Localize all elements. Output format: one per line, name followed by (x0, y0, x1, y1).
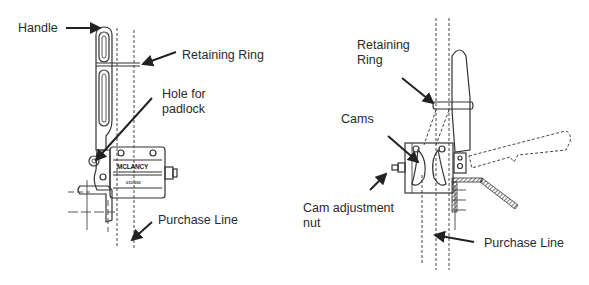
label-retaining-ring-left: Retaining Ring (182, 48, 264, 63)
purchase-line-arrow-right (435, 235, 474, 242)
cam-adjustment-nut (398, 163, 405, 172)
label-cam-adjustment-nut: Cam adjustment nut (303, 201, 394, 231)
label-handle: Handle (18, 21, 58, 36)
retaining-ring-arrow-right (402, 78, 433, 103)
padlock-hole-arrow (96, 98, 152, 160)
retaining-ring-right (433, 102, 473, 109)
model-text: 010-000 (126, 180, 141, 185)
raised-handle (452, 50, 470, 152)
label-hole-for-padlock: Hole for padlock (162, 87, 206, 117)
lowered-handle-outline (469, 131, 570, 168)
handle-lower-slot (99, 70, 109, 126)
retaining-ring-arrow-left (143, 52, 176, 64)
mounting-bracket (480, 178, 518, 209)
cam-left (412, 150, 425, 185)
brand-text: MCLANCY (117, 163, 149, 170)
handle-upper-slot (99, 32, 109, 62)
cam-right (433, 150, 446, 185)
label-cams: Cams (341, 112, 374, 127)
label-purchase-line-left: Purchase Line (158, 213, 238, 228)
adjustment-nut-left (165, 167, 173, 179)
label-retaining-ring-right: Retaining Ring (357, 38, 410, 68)
purchase-line-arrow-left (132, 222, 152, 240)
cam-nut-arrow (370, 174, 386, 190)
label-purchase-line-right: Purchase Line (484, 236, 564, 251)
